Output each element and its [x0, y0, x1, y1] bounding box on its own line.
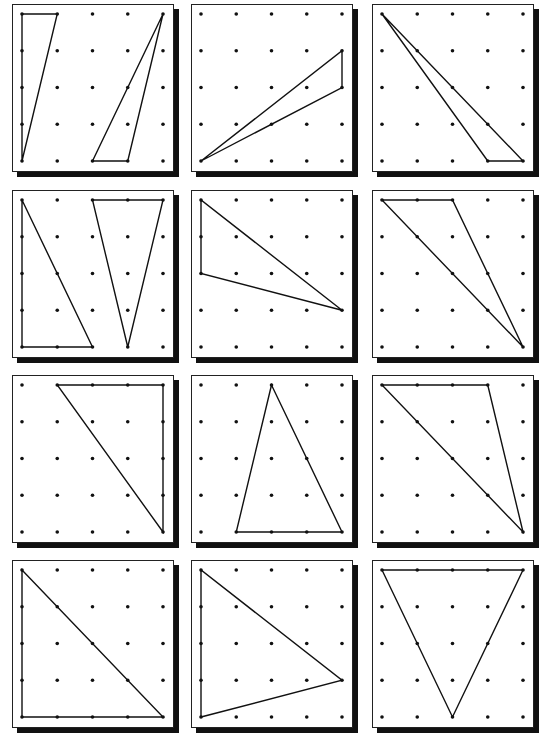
peg-dot	[199, 493, 203, 497]
peg-dot	[521, 12, 525, 16]
peg-dot	[55, 198, 59, 202]
peg-dot	[199, 49, 203, 53]
peg-dot	[340, 568, 344, 572]
peg-dot	[415, 122, 419, 126]
peg-dot	[340, 678, 344, 682]
peg-dot	[340, 493, 344, 497]
peg-dot	[486, 457, 490, 461]
peg-dot	[55, 715, 59, 719]
peg-dot	[126, 198, 130, 202]
geoboard-5	[191, 190, 353, 358]
peg-dot	[199, 235, 203, 239]
peg-dot	[305, 530, 309, 534]
peg-dot	[126, 605, 130, 609]
peg-dot	[199, 308, 203, 312]
peg-dot	[451, 308, 455, 312]
peg-dot	[20, 345, 24, 349]
peg-dot	[486, 605, 490, 609]
peg-dot	[305, 272, 309, 276]
peg-dot	[234, 457, 238, 461]
peg-dot	[199, 122, 203, 126]
peg-dot	[486, 122, 490, 126]
peg-dot	[486, 493, 490, 497]
peg-dot	[161, 49, 165, 53]
peg-dot	[415, 420, 419, 424]
peg-dot	[161, 678, 165, 682]
peg-dot	[305, 308, 309, 312]
peg-dot	[91, 235, 95, 239]
peg-dot	[486, 715, 490, 719]
peg-dot	[91, 493, 95, 497]
geoboard-7	[12, 375, 174, 543]
peg-dot	[415, 235, 419, 239]
peg-dot	[234, 235, 238, 239]
peg-dot	[161, 605, 165, 609]
peg-dot	[270, 457, 274, 461]
peg-dot	[91, 678, 95, 682]
peg-dot	[340, 198, 344, 202]
peg-dot	[20, 493, 24, 497]
peg-dot	[234, 198, 238, 202]
geoboard-drawing	[13, 191, 173, 357]
peg-dot	[451, 457, 455, 461]
peg-dot	[55, 678, 59, 682]
peg-dot	[91, 272, 95, 276]
peg-dot	[340, 49, 344, 53]
peg-dot	[91, 49, 95, 53]
peg-dot	[521, 642, 525, 646]
peg-dot	[270, 678, 274, 682]
geoboard-drawing	[13, 561, 173, 727]
peg-dot	[486, 159, 490, 163]
peg-dot	[234, 49, 238, 53]
peg-dot	[270, 642, 274, 646]
peg-dot	[415, 49, 419, 53]
peg-dot	[20, 715, 24, 719]
peg-dot	[234, 605, 238, 609]
peg-dot	[380, 530, 384, 534]
peg-dot	[126, 678, 130, 682]
geoboard-drawing	[192, 561, 352, 727]
peg-dot	[199, 12, 203, 16]
peg-dot	[521, 345, 525, 349]
peg-dot	[486, 198, 490, 202]
peg-dot	[270, 86, 274, 90]
geoboard-6	[372, 190, 534, 358]
peg-dot	[305, 235, 309, 239]
peg-dot	[340, 345, 344, 349]
peg-dot	[451, 642, 455, 646]
peg-dot	[380, 568, 384, 572]
peg-dot	[199, 345, 203, 349]
peg-dot	[55, 420, 59, 424]
peg-dot	[234, 12, 238, 16]
peg-dot	[270, 159, 274, 163]
peg-dot	[521, 568, 525, 572]
peg-dot	[55, 272, 59, 276]
geoboard-drawing	[373, 5, 533, 171]
peg-dot	[20, 457, 24, 461]
peg-dot	[451, 678, 455, 682]
peg-dot	[234, 420, 238, 424]
peg-dot	[305, 345, 309, 349]
peg-dot	[415, 530, 419, 534]
peg-dot	[91, 159, 95, 163]
peg-dot	[305, 493, 309, 497]
peg-dot	[451, 198, 455, 202]
peg-dot	[270, 530, 274, 534]
peg-dot	[161, 345, 165, 349]
peg-dot	[340, 86, 344, 90]
peg-dot	[20, 678, 24, 682]
peg-dot	[91, 122, 95, 126]
peg-dot	[451, 86, 455, 90]
peg-dot	[126, 159, 130, 163]
peg-dot	[126, 86, 130, 90]
peg-dot	[199, 383, 203, 387]
peg-dot	[91, 568, 95, 572]
geoboard-drawing	[192, 5, 352, 171]
peg-dot	[521, 493, 525, 497]
peg-dot	[521, 308, 525, 312]
peg-dot	[126, 49, 130, 53]
peg-dot	[380, 678, 384, 682]
peg-dot	[340, 272, 344, 276]
peg-dot	[270, 235, 274, 239]
peg-dot	[55, 605, 59, 609]
